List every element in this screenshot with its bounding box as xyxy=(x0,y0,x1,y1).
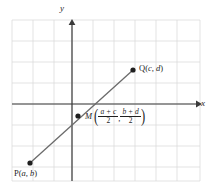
midpoint-x-denominator: 2 xyxy=(98,116,118,125)
x-axis-label: x xyxy=(201,99,205,108)
point-p-suffix: ) xyxy=(34,168,37,178)
point-q-label: Q(c, d) xyxy=(139,64,163,73)
point-q-suffix: ) xyxy=(160,63,163,73)
point-m-open-paren: ( xyxy=(94,109,98,124)
midpoint-x-numerator: a + c xyxy=(99,108,117,116)
y-axis-label: y xyxy=(60,4,64,13)
midpoint-y-denominator: 2 xyxy=(120,116,140,125)
point-q-prefix: Q( xyxy=(139,63,148,73)
point-m xyxy=(75,113,80,118)
point-m-label: M ( a + c 2 , b + d 2 ) xyxy=(85,108,147,125)
diagram-canvas xyxy=(0,0,213,192)
midpoint-y-numerator: b + d xyxy=(121,108,139,116)
midpoint-formula-diagram: y x P(a, b) Q(c, d) M ( a + c 2 , b + d … xyxy=(0,0,213,192)
point-m-close-paren: ) xyxy=(141,109,145,124)
point-q xyxy=(130,67,135,72)
midpoint-y-fraction: b + d 2 xyxy=(121,108,139,125)
axes xyxy=(12,19,202,181)
grid-lines xyxy=(12,20,200,181)
point-m-letter: M xyxy=(85,112,92,121)
point-p-prefix: P( xyxy=(14,168,22,178)
point-p xyxy=(27,160,32,165)
midpoint-x-fraction: a + c 2 xyxy=(99,108,117,125)
point-p-label: P(a, b) xyxy=(14,169,37,178)
